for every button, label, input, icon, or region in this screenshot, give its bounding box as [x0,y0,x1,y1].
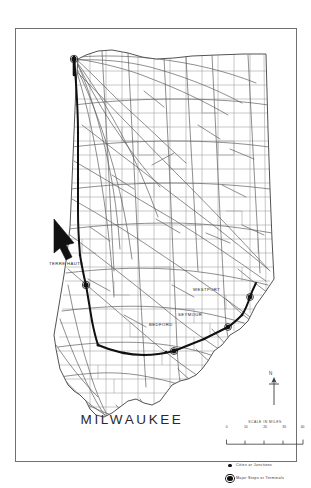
scale-tick-1: 10 [244,426,248,429]
city-label-seymour: SEYMOUR [178,313,202,317]
indiana-rail-network-svg [16,29,298,463]
rail-network [56,51,272,439]
legend-item-cities-or-junctions: Cities or Junctions [224,459,310,472]
map-drawing-surface [16,29,298,463]
large-ringed-dot-icon [224,476,236,481]
map-page: TERRE HAUTE WESTPORT SEYMOUR BEDFORD N S… [0,0,311,488]
small-filled-dot-icon [224,464,236,467]
north-arrow: N [263,371,285,407]
city-label-terre-haute: TERRE HAUTE [49,262,84,266]
scale-tick-2: 20 [263,426,267,429]
scale-bar: SCALE IN MILES 0 10 20 30 40 [225,421,305,438]
map-legend: Cities or Junctions Major Stops or Termi… [224,459,310,485]
legend-label-major-stops-or-terminals: Major Stops or Terminals [236,477,284,481]
scale-ruler [225,432,305,438]
north-arrow-glyph [263,371,285,407]
scale-tick-0: 0 [226,426,228,429]
city-label-bedford: BEDFORD [149,323,173,327]
legend-item-major-stops-or-terminals: Major Stops or Terminals [224,472,310,485]
county-boundaries [56,50,273,417]
legend-label-cities-or-junctions: Cities or Junctions [236,464,272,468]
route-title: MILWAUKEE [62,412,202,427]
city-label-westport: WESTPORT [193,288,220,292]
scale-tick-4: 40 [301,426,305,429]
highlighted-milwaukee-route [74,57,256,355]
scale-ruler-glyph [225,439,305,446]
scale-caption: SCALE IN MILES [225,421,305,424]
north-arrow-label: N [269,371,273,376]
scale-tick-3: 30 [282,426,286,429]
indiana-state-outline [54,50,274,417]
map-frame: TERRE HAUTE WESTPORT SEYMOUR BEDFORD N S… [15,28,297,462]
